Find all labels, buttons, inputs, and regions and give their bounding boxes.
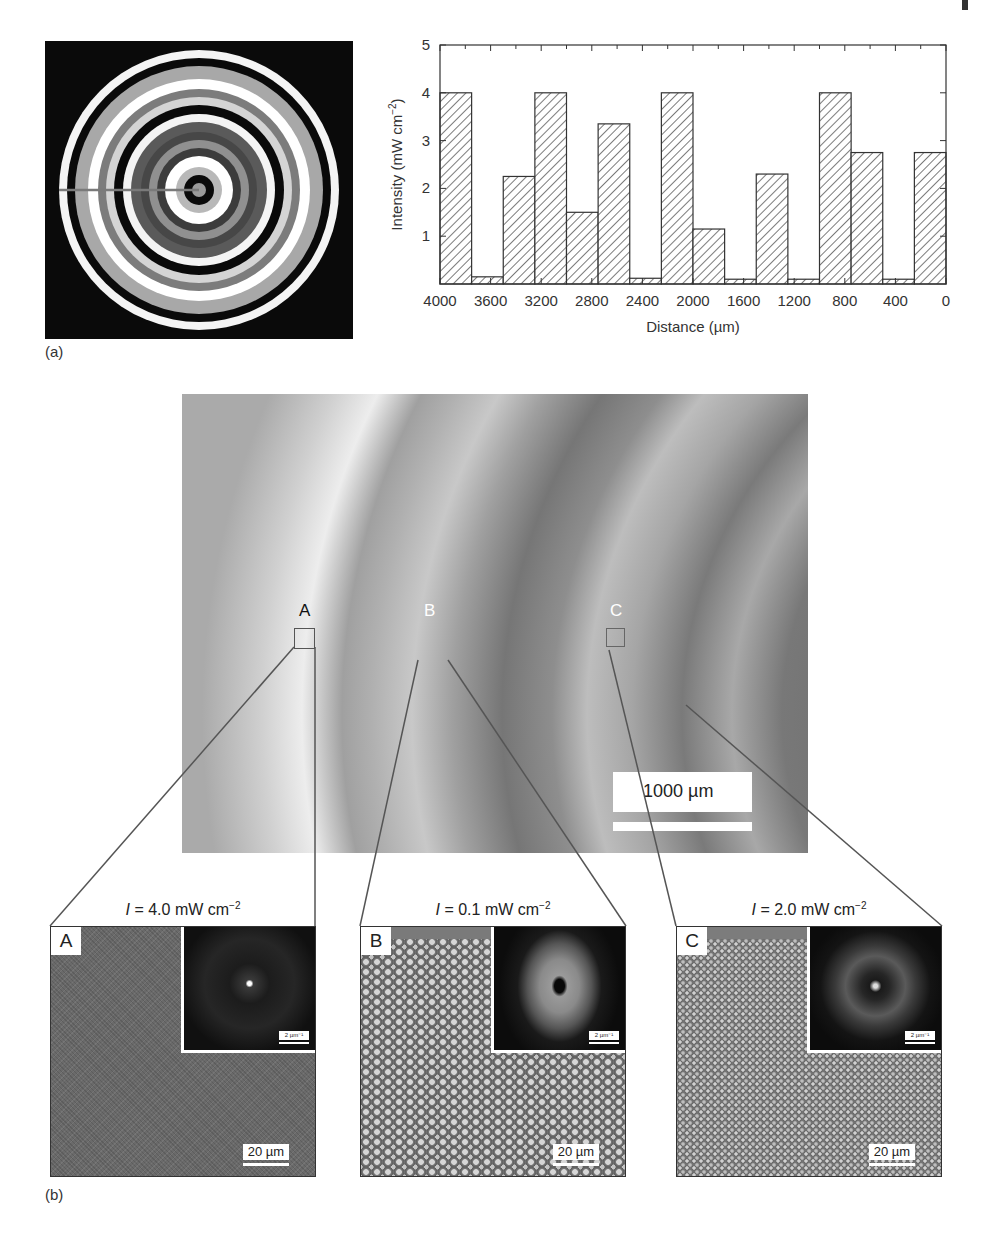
intensity-label-a: I = 4.0 mW cm−2 (50, 900, 316, 919)
zoom-panel-a: A 2 µm⁻¹ 20 µm (50, 926, 316, 1177)
zoom-panel-letter: B (361, 927, 391, 955)
fft-inset: 2 µm⁻¹ (181, 927, 315, 1053)
scale-bar-label: 1000 µm (643, 781, 713, 802)
bar (820, 93, 852, 284)
intensity-label-c: I = 2.0 mW cm−2 (676, 900, 942, 919)
bar (630, 278, 662, 284)
y-tick-label: 3 (422, 132, 430, 149)
zoom-panel-b: B 2 µm⁻¹ 20 µm (360, 926, 626, 1177)
x-tick-label: 2400 (626, 292, 659, 309)
y-axis-title: Intensity (mW cm−2) (387, 98, 405, 230)
region-box-c (606, 628, 625, 647)
fft-inset: 2 µm⁻¹ (491, 927, 625, 1053)
bar (756, 174, 788, 284)
x-tick-label: 400 (883, 292, 908, 309)
bar (914, 153, 946, 284)
region-label-b: B (424, 601, 435, 621)
x-tick-label: 4000 (423, 292, 456, 309)
bar (598, 124, 630, 284)
bar (472, 277, 504, 284)
ring-pattern-graphic (45, 41, 353, 339)
panel-top-strip (707, 927, 811, 939)
intensity-bar-chart: 4000360032002800240020001600120080040001… (380, 0, 984, 350)
x-tick-label: 1200 (778, 292, 811, 309)
ring-pattern-micrograph: A B C 1000 µm (182, 394, 808, 853)
bar (725, 279, 757, 284)
scale-bar-label-box: 1000 µm (613, 772, 752, 812)
scale-bar (613, 822, 752, 831)
region-box-a (294, 628, 315, 649)
bar (503, 176, 535, 284)
x-axis-title: Distance (µm) (646, 318, 740, 335)
y-tick-label: 1 (422, 227, 430, 244)
zoom-panel-letter: A (51, 927, 81, 955)
bar (661, 93, 693, 284)
bar (788, 279, 820, 284)
scale-bar-20um: 20 µm (243, 1144, 289, 1166)
bar (567, 212, 599, 284)
bar (693, 229, 725, 284)
scale-bar-20um: 20 µm (869, 1144, 915, 1166)
region-label-a: A (299, 601, 310, 621)
fft-inset: 2 µm⁻¹ (807, 927, 941, 1053)
y-tick-label: 2 (422, 179, 430, 196)
fft-scale-bar: 2 µm⁻¹ (905, 1031, 935, 1044)
x-tick-label: 1600 (727, 292, 760, 309)
bar (883, 279, 915, 284)
x-tick-label: 3200 (525, 292, 558, 309)
x-tick-label: 3600 (474, 292, 507, 309)
x-tick-label: 2000 (676, 292, 709, 309)
bar (535, 93, 567, 284)
zoom-panel-c: C 2 µm⁻¹ 20 µm (676, 926, 942, 1177)
fft-scale-bar: 2 µm⁻¹ (589, 1031, 619, 1044)
concentric-ring-mask-image (45, 41, 353, 339)
bar (851, 153, 883, 284)
y-tick-label: 4 (422, 84, 430, 101)
x-tick-label: 0 (942, 292, 950, 309)
fft-scale-bar: 2 µm⁻¹ (279, 1031, 309, 1044)
y-tick-label: 5 (422, 36, 430, 53)
scale-bar-20um: 20 µm (553, 1144, 599, 1166)
panel-a-label: (a) (45, 343, 63, 360)
region-label-c: C (610, 601, 622, 621)
x-tick-label: 2800 (575, 292, 608, 309)
panel-b-label: (b) (45, 1186, 63, 1203)
x-tick-label: 800 (832, 292, 857, 309)
intensity-label-b: I = 0.1 mW cm−2 (360, 900, 626, 919)
zoom-panel-letter: C (677, 927, 707, 955)
panel-top-strip (391, 927, 495, 939)
